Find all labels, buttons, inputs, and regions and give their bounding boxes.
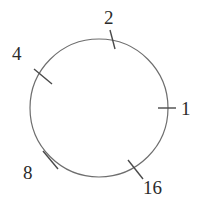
tick-label-8: 8 — [23, 163, 33, 182]
tick-label-4: 4 — [12, 44, 22, 63]
tick-mark-8 — [43, 151, 58, 169]
tick-label-1: 1 — [181, 99, 191, 118]
tick-label-2: 2 — [104, 8, 114, 27]
tick-label-16: 16 — [143, 178, 162, 197]
tick-mark-4 — [34, 69, 52, 84]
circle-outline — [30, 39, 168, 177]
circle-tick-diagram: 1 2 4 8 16 — [0, 0, 206, 210]
